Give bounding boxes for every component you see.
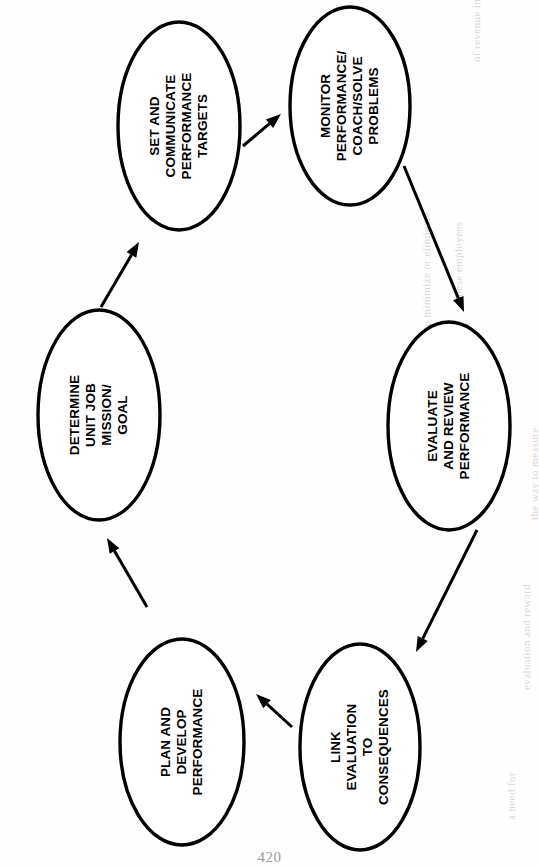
arrow-determine-to-set-head <box>127 242 139 258</box>
node-ellipse-link-evaluation-to-consequences <box>300 644 420 850</box>
arrow-set-to-monitor <box>243 124 270 146</box>
node-ellipse-evaluate-and-review-performance <box>388 322 510 530</box>
arrow-evaluate-to-link <box>423 530 477 639</box>
scanned-page: of revenue improvementthese employeesand… <box>0 0 539 867</box>
node-ellipse-set-and-communicate-performance-targets <box>118 22 240 230</box>
node-ellipse-monitor-performance-coach-solve-problems <box>290 7 410 205</box>
arrow-plan-to-determine <box>115 551 147 607</box>
arrow-monitor-to-evaluate-head <box>453 296 464 312</box>
arrow-determine-to-set <box>101 255 131 307</box>
arrow-link-to-plan <box>267 704 292 727</box>
arrow-plan-to-determine-head <box>107 538 119 554</box>
ellipses-group <box>38 7 510 850</box>
node-ellipse-determine-unit-job-mission-goal <box>38 310 160 520</box>
arrow-monitor-to-evaluate <box>404 166 458 298</box>
diagram-canvas <box>0 0 539 867</box>
page-number: 420 <box>0 849 539 867</box>
arrow-evaluate-to-link-head <box>416 636 428 652</box>
node-ellipse-plan-and-develop-performance <box>120 639 244 845</box>
